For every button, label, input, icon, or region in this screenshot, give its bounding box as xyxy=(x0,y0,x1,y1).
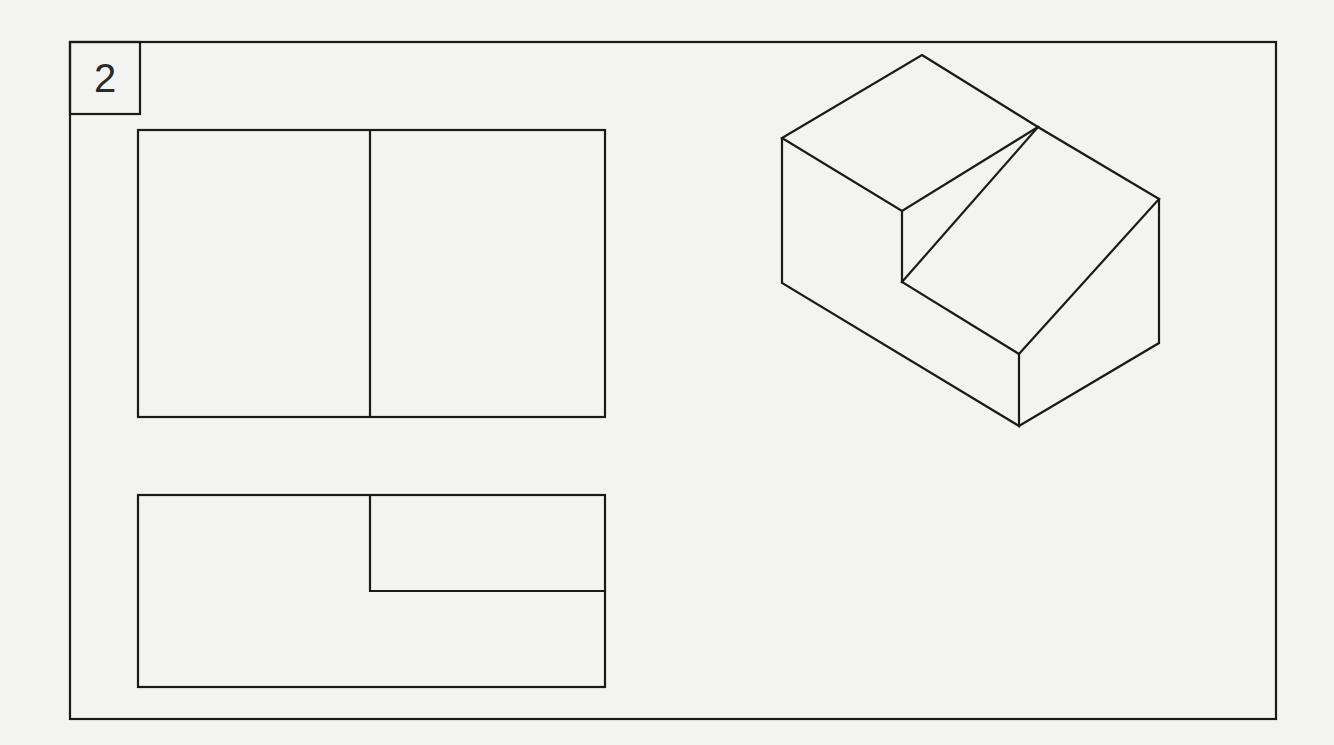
isometric-view xyxy=(782,55,1159,426)
lower-orthographic-view xyxy=(138,495,605,687)
iso-right-face xyxy=(1019,199,1159,426)
iso-slope-far-edge xyxy=(1019,199,1159,354)
exercise-number-box: 2 xyxy=(70,42,140,114)
iso-left-face xyxy=(782,138,1019,426)
iso-top-face xyxy=(782,55,1038,211)
upper-view-outline xyxy=(138,130,605,417)
upper-orthographic-view xyxy=(138,130,605,417)
drawing-sheet: 2 xyxy=(0,0,1334,745)
lower-view-step-line xyxy=(370,495,605,591)
iso-slope-edge xyxy=(902,127,1038,282)
iso-ridge-edge xyxy=(1038,127,1159,199)
exercise-number: 2 xyxy=(94,56,116,100)
iso-step-edge xyxy=(902,282,1019,354)
